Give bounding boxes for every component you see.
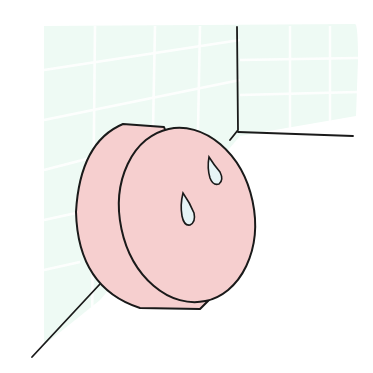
soap-bar xyxy=(76,115,271,315)
soap-illustration xyxy=(0,0,373,373)
